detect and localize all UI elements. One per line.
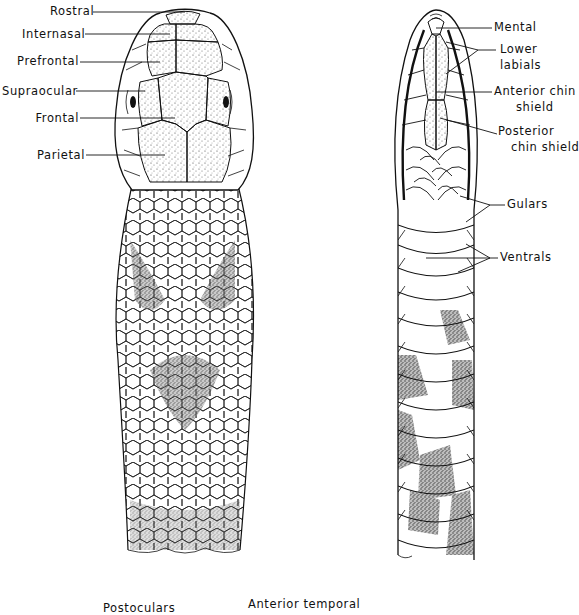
label-lower-labials-line1: Lower [500,42,537,56]
label-parietal: Parietal [30,148,85,162]
label-postoculars: Postoculars [103,601,175,615]
right-eye [223,96,229,108]
label-lower-labials-line2: labials [500,58,541,72]
label-frontal: Frontal [30,111,79,125]
label-supraocular: Supraocular [2,84,75,98]
label-anterior-chin-shield-line2: shield [516,100,554,114]
label-prefrontal: Prefrontal [15,54,79,68]
label-internasal: Internasal [22,27,84,41]
dorsal-view [76,9,270,560]
label-anterior-temporal: Anterior temporal [248,597,360,611]
label-anterior-chin-shield-line1: Anterior chin [494,84,576,98]
label-gulars: Gulars [507,197,548,211]
ventral-view [395,10,505,560]
label-mental: Mental [494,20,537,34]
left-eye [130,96,136,108]
label-rostral: Rostral [50,4,92,18]
label-ventrals: Ventrals [500,250,552,264]
label-posterior-chin-shield-line2: chin shield [511,140,579,154]
label-posterior-chin-shield-line1: Posterior [498,124,554,138]
